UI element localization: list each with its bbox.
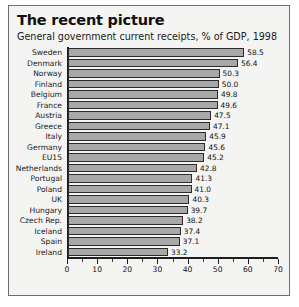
bar-row: Finland50.0 xyxy=(67,79,278,90)
bar-row: Spain37.1 xyxy=(67,236,278,247)
bar xyxy=(68,80,219,89)
x-tick-major xyxy=(97,259,98,264)
bar xyxy=(68,111,211,120)
bar-row: Czech Rep.38.2 xyxy=(67,215,278,226)
chart-title: The recent picture xyxy=(17,12,164,28)
x-tick-major xyxy=(127,259,128,264)
category-label: France xyxy=(37,100,62,109)
x-tick-major xyxy=(278,259,279,264)
category-label: Czech Rep. xyxy=(20,216,62,225)
bar xyxy=(68,174,192,183)
x-tick-label: 20 xyxy=(122,265,132,274)
x-tick-label: 0 xyxy=(65,265,70,274)
category-label: Germany xyxy=(27,142,62,151)
bar-row: Denmark56.4 xyxy=(67,58,278,69)
category-label: Netherlands xyxy=(16,163,62,172)
bar-row: Ireland33.2 xyxy=(67,247,278,258)
category-label: Italy xyxy=(46,132,62,141)
bar xyxy=(68,216,183,225)
x-tick-label: 70 xyxy=(273,265,283,274)
x-tick-major xyxy=(157,259,158,264)
bar-value-label: 39.7 xyxy=(191,205,207,214)
category-label: UK xyxy=(51,195,62,204)
bar xyxy=(68,248,168,257)
x-tick-minor xyxy=(263,259,264,262)
x-tick-minor xyxy=(233,259,234,262)
category-label: Norway xyxy=(33,69,62,78)
bar xyxy=(68,185,192,194)
bar-value-label: 45.2 xyxy=(207,153,223,162)
bar-value-label: 47.1 xyxy=(213,121,229,130)
bar-value-label: 50.0 xyxy=(222,79,238,88)
category-label: Sweden xyxy=(32,48,62,57)
chart-figure: The recent picture General government cu… xyxy=(8,5,290,296)
bar-row: EU1545.2 xyxy=(67,152,278,163)
category-label: Spain xyxy=(41,237,62,246)
x-tick-label: 10 xyxy=(92,265,102,274)
bar-row: Austria47.5 xyxy=(67,110,278,121)
bar-row: Italy45.9 xyxy=(67,131,278,142)
bar-row: Norway50.3 xyxy=(67,68,278,79)
chart-subtitle: General government current receipts, % o… xyxy=(17,31,277,42)
bar-value-label: 49.8 xyxy=(221,90,237,99)
bar-value-label: 47.5 xyxy=(214,111,230,120)
category-label: Austria xyxy=(35,111,62,120)
bar xyxy=(68,122,210,131)
bar-row: Iceland37.4 xyxy=(67,226,278,237)
category-label: EU15 xyxy=(42,153,62,162)
bar-value-label: 38.2 xyxy=(186,216,202,225)
bar-row: Portugal41.3 xyxy=(67,173,278,184)
x-tick-minor xyxy=(203,259,204,262)
bar-row: France49.6 xyxy=(67,100,278,111)
bar xyxy=(68,237,180,246)
x-tick-label: 30 xyxy=(153,265,163,274)
category-label: Finland xyxy=(35,79,62,88)
x-tick-minor xyxy=(173,259,174,262)
bar xyxy=(68,132,206,141)
x-tick-major xyxy=(67,259,68,264)
bar xyxy=(68,195,189,204)
bar xyxy=(68,48,244,57)
bar xyxy=(68,69,220,78)
category-label: Iceland xyxy=(35,226,62,235)
bar-row: UK40.3 xyxy=(67,194,278,205)
bar-value-label: 37.4 xyxy=(184,226,200,235)
bar-value-label: 41.0 xyxy=(195,184,211,193)
x-tick-major xyxy=(218,259,219,264)
bar-value-label: 50.3 xyxy=(223,69,239,78)
x-tick-minor xyxy=(112,259,113,262)
bar-row: Hungary39.7 xyxy=(67,205,278,216)
bar-row: Germany45.6 xyxy=(67,142,278,153)
bar-row: Greece47.1 xyxy=(67,121,278,132)
bar-row: Sweden58.5 xyxy=(67,47,278,58)
x-tick-major xyxy=(248,259,249,264)
x-tick-label: 60 xyxy=(243,265,253,274)
bar-value-label: 45.6 xyxy=(208,142,224,151)
bar xyxy=(68,101,218,110)
category-label: Belgium xyxy=(31,90,62,99)
bar-value-label: 49.6 xyxy=(221,100,237,109)
plot-area: Sweden58.5Denmark56.4Norway50.3Finland50… xyxy=(67,47,278,269)
bar-value-label: 40.3 xyxy=(192,195,208,204)
bar xyxy=(68,59,238,68)
category-label: Ireland xyxy=(36,247,62,256)
x-tick-minor xyxy=(142,259,143,262)
x-tick-label: 40 xyxy=(183,265,193,274)
bar-row: Netherlands42.8 xyxy=(67,163,278,174)
x-tick-major xyxy=(188,259,189,264)
category-label: Poland xyxy=(37,184,62,193)
bar xyxy=(68,90,218,99)
bar-value-label: 33.2 xyxy=(171,247,187,256)
x-tick-minor xyxy=(82,259,83,262)
bar-value-label: 58.5 xyxy=(247,48,263,57)
bar xyxy=(68,153,204,162)
bar xyxy=(68,143,205,152)
category-label: Hungary xyxy=(30,205,62,214)
bar-value-label: 41.3 xyxy=(195,174,211,183)
bar xyxy=(68,164,197,173)
bar-value-label: 37.1 xyxy=(183,237,199,246)
category-label: Greece xyxy=(35,121,62,130)
bar-value-label: 56.4 xyxy=(241,58,257,67)
bar-row: Belgium49.8 xyxy=(67,89,278,100)
bar xyxy=(68,227,181,236)
